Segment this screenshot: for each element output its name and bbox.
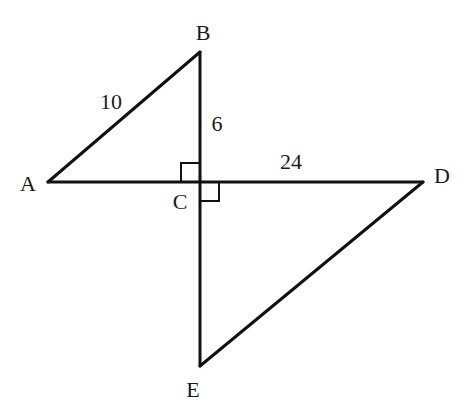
vertex-label-e: E [186,377,199,402]
geometry-diagram: B A C D E 10 6 24 [0,0,465,409]
length-label-ab: 10 [100,89,122,114]
length-label-bc: 6 [212,111,223,136]
vertex-label-b: B [196,20,211,45]
length-label-cd: 24 [280,149,302,174]
segment-ab [48,52,200,182]
vertex-label-d: D [434,163,450,188]
segment-de [200,182,423,366]
right-angle-marker-dce [200,182,219,201]
right-angle-marker-acb [181,163,200,182]
vertex-label-c: C [173,189,188,214]
vertex-label-a: A [20,171,36,196]
